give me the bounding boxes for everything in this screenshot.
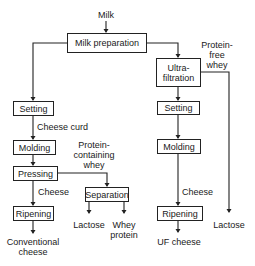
label-whey-protein: Whey protein bbox=[108, 220, 140, 240]
input-milk-label: Milk bbox=[96, 10, 116, 20]
arrowhead bbox=[122, 210, 127, 214]
node-ripening-left: Ripening bbox=[13, 206, 54, 221]
label-lactose-left: Lactose bbox=[72, 220, 106, 230]
node-milk-preparation: Milk preparation bbox=[67, 33, 147, 53]
label-protein-containing-whey: Protein- containing whey bbox=[70, 140, 118, 170]
node-setting-right: Setting bbox=[157, 101, 200, 115]
label-lactose-right: Lactose bbox=[212, 220, 246, 230]
arrowhead bbox=[31, 230, 36, 234]
node-ripening-right: Ripening bbox=[157, 206, 203, 221]
node-setting-left: Setting bbox=[13, 101, 54, 116]
arrowhead bbox=[176, 229, 181, 233]
node-separation: Separation bbox=[85, 187, 129, 202]
node-pressing: Pressing bbox=[13, 166, 58, 181]
label-protein-free-whey: Protein- free whey bbox=[198, 40, 236, 70]
node-molding-left: Molding bbox=[13, 140, 56, 155]
label-cheese-curd: Cheese curd bbox=[37, 122, 93, 132]
arrow-pressing-to-separation bbox=[57, 173, 107, 186]
node-ultrafiltration: Ultra- filtration bbox=[156, 58, 201, 87]
label-conventional-cheese: Conventional cheese bbox=[2, 237, 64, 257]
arrow-prep-to-setting-left bbox=[33, 43, 67, 100]
label-cheese-right: Cheese bbox=[182, 187, 214, 197]
node-molding-right: Molding bbox=[157, 139, 201, 154]
arrow-prep-to-ultrafiltration bbox=[146, 43, 178, 57]
label-uf-cheese: UF cheese bbox=[156, 237, 202, 247]
arrowhead bbox=[227, 209, 232, 213]
arrowhead bbox=[87, 210, 92, 214]
label-cheese-left: Cheese bbox=[38, 187, 70, 197]
